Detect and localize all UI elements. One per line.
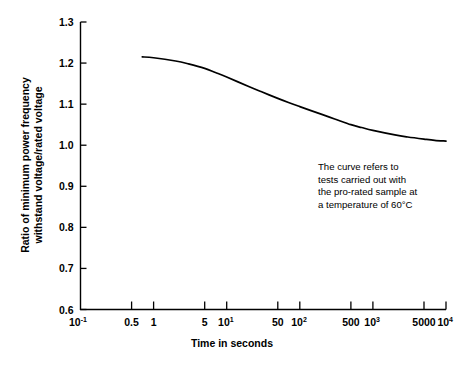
annotation-line-2: tests carried out with bbox=[318, 174, 417, 187]
y-tick-label: 0.7 bbox=[59, 262, 74, 274]
x-axis-ticks bbox=[132, 302, 446, 310]
x-tick-label: 102 bbox=[291, 316, 307, 328]
x-tick-label: 1 bbox=[151, 316, 157, 328]
y-axis-ticks bbox=[81, 22, 87, 310]
chart-annotation: The curve refers to tests carried out wi… bbox=[318, 161, 417, 211]
y-axis-tick-labels: 1.31.21.11.00.90.80.70.6 bbox=[59, 16, 74, 316]
x-tick-label: 0.5 bbox=[124, 316, 139, 328]
x-tick-label: 104 bbox=[437, 316, 453, 328]
x-tick-label: 103 bbox=[364, 316, 380, 328]
x-tick-label: 5 bbox=[202, 316, 208, 328]
annotation-line-3: the pro-rated sample at bbox=[318, 186, 417, 199]
y-tick-label: 0.8 bbox=[59, 221, 74, 233]
chart-figure: 1.31.21.11.00.90.80.70.6 10-10.515101501… bbox=[0, 0, 464, 367]
y-tick-label: 0.6 bbox=[59, 304, 74, 316]
x-tick-label: 101 bbox=[218, 316, 234, 328]
x-axis-title: Time in seconds bbox=[0, 337, 464, 349]
y-axis-title: Ratio of minimum power frequency withsta… bbox=[14, 30, 50, 300]
y-tick-label: 1.1 bbox=[59, 98, 74, 110]
x-axis-tick-labels: 10-10.515101501025001035000104 bbox=[69, 316, 453, 328]
y-tick-label: 1.0 bbox=[59, 139, 74, 151]
x-tick-label: 50 bbox=[272, 316, 284, 328]
x-tick-label: 5000 bbox=[412, 316, 436, 328]
x-tick-label: 500 bbox=[342, 316, 360, 328]
y-tick-label: 1.3 bbox=[59, 16, 74, 28]
annotation-line-1: The curve refers to bbox=[318, 161, 417, 174]
y-axis-title-line-2: withstand voltage/rated voltage bbox=[32, 87, 44, 244]
y-tick-label: 1.2 bbox=[59, 57, 74, 69]
y-tick-label: 0.9 bbox=[59, 180, 74, 192]
annotation-line-4: a temperature of 60°C bbox=[318, 199, 417, 212]
x-tick-label: 10-1 bbox=[69, 316, 87, 328]
data-series-line bbox=[142, 57, 446, 141]
y-axis-title-line-1: Ratio of minimum power frequency bbox=[19, 77, 31, 253]
